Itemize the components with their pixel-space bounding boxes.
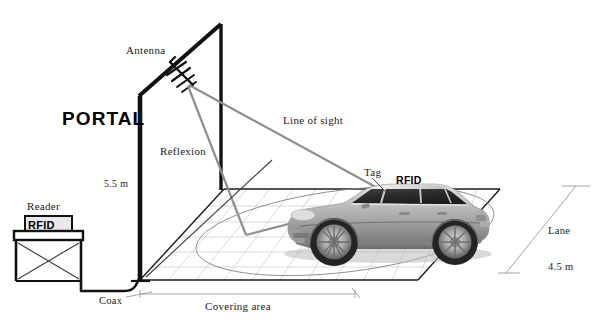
- lane-name-text: Lane: [548, 225, 573, 237]
- coax-label: Coax: [99, 295, 122, 307]
- portal-label: PORTAL: [62, 108, 145, 130]
- covering-area-label: Covering area: [205, 300, 271, 313]
- line-of-sight-label: Line of sight: [283, 114, 343, 127]
- reader-label: Reader: [27, 200, 60, 213]
- tag-label: Tag: [364, 166, 381, 179]
- rfid-portal-diagram: PORTAL Antenna Reflexion Line of sight T…: [0, 0, 601, 328]
- antenna-label: Antenna: [126, 44, 165, 57]
- portal-height-label: 5.5 m: [104, 178, 128, 190]
- covering-area-dimension: [140, 288, 360, 298]
- lane-dimension: [498, 186, 590, 273]
- lane-label: Lane 4.5 m: [548, 201, 573, 298]
- coax-cable: [81, 279, 139, 291]
- diagram-canvas: [0, 0, 601, 328]
- reader-rfid-label: RFID: [28, 219, 55, 232]
- coax-leader: [126, 292, 152, 297]
- reflexion-label: Reflexion: [160, 145, 206, 158]
- tag-rfid-label: RFID: [396, 174, 422, 186]
- lane-width-text: 4.5 m: [548, 261, 573, 273]
